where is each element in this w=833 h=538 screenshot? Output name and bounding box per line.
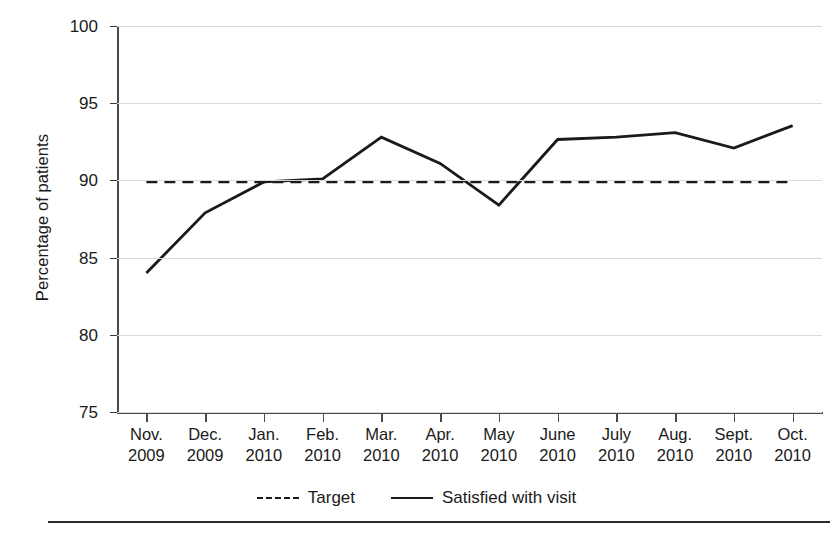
x-tick-mark <box>146 414 148 422</box>
x-tick-label-line: 2010 <box>715 445 754 466</box>
gridline <box>117 412 822 413</box>
x-tick-label: June2010 <box>539 424 576 465</box>
x-tick-mark <box>793 414 795 422</box>
y-tick-label: 75 <box>0 404 98 421</box>
x-tick-label: July2010 <box>598 424 635 465</box>
gridline <box>117 103 822 104</box>
x-tick-mark <box>440 414 442 422</box>
gridline <box>117 26 822 27</box>
legend-item-target: Target <box>257 488 355 508</box>
x-tick-label: Nov.2009 <box>128 424 165 465</box>
legend-label-target: Target <box>308 488 355 508</box>
x-tick-label-line: May <box>481 424 518 445</box>
x-tick-mark <box>558 414 560 422</box>
x-tick-label-line: 2010 <box>481 445 518 466</box>
y-tick-mark <box>110 258 117 259</box>
x-tick-mark <box>499 414 501 422</box>
dashed-line-icon <box>257 497 299 499</box>
x-tick-label-line: 2010 <box>657 445 694 466</box>
x-tick-label-line: 2010 <box>598 445 635 466</box>
x-tick-label-line: Mar. <box>363 424 400 445</box>
y-tick-mark <box>110 412 117 413</box>
y-tick-mark <box>110 26 117 27</box>
x-tick-label-line: Dec. <box>187 424 224 445</box>
legend-item-satisfied: Satisfied with visit <box>391 488 576 508</box>
x-tick-label: Dec.2009 <box>187 424 224 465</box>
y-tick-mark <box>110 103 117 104</box>
series-line <box>146 126 792 273</box>
x-tick-label-line: Apr. <box>422 424 459 445</box>
x-tick-label: Feb.2010 <box>304 424 341 465</box>
x-tick-label-line: July <box>598 424 635 445</box>
x-tick-label-line: 2010 <box>539 445 576 466</box>
x-tick-label: Oct.2010 <box>774 424 811 465</box>
y-tick-mark <box>110 335 117 336</box>
y-tick-label: 100 <box>0 18 98 35</box>
x-tick-label: Aug.2010 <box>657 424 694 465</box>
x-tick-label-line: Aug. <box>657 424 694 445</box>
x-tick-label: Sept.2010 <box>715 424 754 465</box>
x-tick-label-line: 2010 <box>774 445 811 466</box>
x-tick-mark <box>205 414 207 422</box>
y-axis-title: Percentage of patients <box>33 68 52 368</box>
series-lines <box>117 26 822 412</box>
legend-label-satisfied: Satisfied with visit <box>442 488 576 508</box>
solid-line-icon <box>391 497 433 499</box>
x-tick-label-line: Oct. <box>774 424 811 445</box>
x-tick-label-line: Jan. <box>246 424 283 445</box>
x-tick-label: Mar.2010 <box>363 424 400 465</box>
x-tick-mark <box>264 414 266 422</box>
x-tick-mark <box>323 414 325 422</box>
x-tick-label: Apr.2010 <box>422 424 459 465</box>
x-tick-mark <box>675 414 677 422</box>
x-tick-label-line: 2010 <box>363 445 400 466</box>
x-tick-mark <box>381 414 383 422</box>
x-tick-label-line: June <box>539 424 576 445</box>
y-tick-label: 85 <box>0 249 98 266</box>
chart-legend: Target Satisfied with visit <box>0 488 833 508</box>
x-tick-label-line: 2010 <box>422 445 459 466</box>
x-tick-label-line: 2010 <box>304 445 341 466</box>
x-tick-label-line: 2010 <box>246 445 283 466</box>
gridline <box>117 335 822 336</box>
gridline <box>117 258 822 259</box>
x-tick-label-line: 2009 <box>187 445 224 466</box>
x-tick-label: Jan.2010 <box>246 424 283 465</box>
x-tick-label: May2010 <box>481 424 518 465</box>
x-tick-mark <box>734 414 736 422</box>
x-tick-label-line: 2009 <box>128 445 165 466</box>
y-tick-label: 80 <box>0 326 98 343</box>
bottom-divider <box>48 521 830 523</box>
x-tick-label-line: Nov. <box>128 424 165 445</box>
y-tick-label: 90 <box>0 172 98 189</box>
y-tick-mark <box>110 180 117 181</box>
chart-figure: Percentage of patients 7580859095100 Nov… <box>0 0 833 538</box>
x-tick-label-line: Sept. <box>715 424 754 445</box>
x-tick-label-line: Feb. <box>304 424 341 445</box>
y-tick-label: 95 <box>0 95 98 112</box>
gridline <box>117 180 822 181</box>
plot-area <box>117 26 822 412</box>
x-tick-mark <box>616 414 618 422</box>
